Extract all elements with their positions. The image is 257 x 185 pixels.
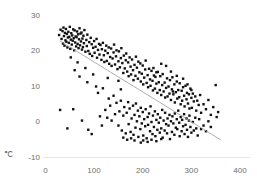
data-point [139,62,141,64]
data-point [99,115,101,117]
data-point [76,61,78,63]
data-point [171,115,173,117]
data-point [172,122,174,124]
data-point [160,94,162,96]
data-point [132,104,134,106]
data-point [103,61,105,63]
data-point [104,109,106,111]
data-point [166,117,168,119]
data-point [116,68,118,70]
data-point [189,126,191,128]
data-point [108,97,110,99]
data-point [121,62,123,64]
data-point [76,43,78,45]
data-point [181,119,183,121]
x-tick-label: 100 [79,166,109,175]
data-point [92,73,94,75]
data-point [107,77,109,79]
data-point [135,55,137,57]
data-point [77,33,79,35]
data-point [104,49,106,51]
data-point [124,67,126,69]
data-point [120,100,122,102]
data-point [182,125,184,127]
data-point [158,122,160,124]
data-point [128,56,130,58]
data-point [128,107,130,109]
data-point [150,70,152,72]
data-point [117,80,119,82]
data-point [107,52,109,54]
y-tick-label: 20 [20,46,40,55]
data-point [97,92,99,94]
data-point [70,56,72,58]
data-point [174,101,176,103]
data-point [188,107,190,109]
data-point [185,98,187,100]
data-point [83,42,85,44]
data-point [146,116,148,118]
data-point [81,119,83,121]
data-point [126,70,128,72]
data-point [154,135,156,137]
data-point [155,140,157,142]
data-point [82,35,84,37]
data-point [151,80,153,82]
data-point [98,53,100,55]
data-point [110,119,112,121]
data-point [168,92,170,94]
data-point [115,102,117,104]
data-point [81,48,83,50]
data-point [59,109,61,111]
data-point [170,70,172,72]
data-point [195,127,197,129]
data-point [110,47,112,49]
data-point [179,82,181,84]
data-point [74,41,76,43]
data-point [58,34,60,36]
data-point [134,126,136,128]
data-point [161,84,163,86]
data-point [97,49,99,51]
data-point [191,107,193,109]
data-point [122,114,124,116]
data-point [171,76,173,78]
data-point [160,138,162,140]
data-point [129,65,131,67]
data-point [144,108,146,110]
y-tick-label: 10 [20,82,40,91]
data-point [71,34,73,36]
data-point [193,129,195,131]
data-point [90,133,92,135]
data-point [176,75,178,77]
data-point [137,77,139,79]
data-point [167,85,169,87]
data-point [137,109,139,111]
data-point [72,40,74,42]
data-point [127,101,129,103]
data-point [111,57,113,59]
data-point [62,26,64,28]
data-point [143,76,145,78]
data-point [169,138,171,140]
data-point [177,89,179,91]
data-point [161,109,163,111]
data-point [142,134,144,136]
data-point [101,48,103,50]
data-point [178,122,180,124]
data-point [103,54,105,56]
x-tick-label: 400 [225,166,255,175]
data-point [210,114,212,116]
data-point [129,131,131,133]
data-point [115,55,117,57]
data-point [187,136,189,138]
data-point [217,111,219,113]
data-point [202,124,204,126]
data-point [141,73,143,75]
data-point [136,66,138,68]
data-point [117,124,119,126]
data-point [121,129,123,131]
data-point [75,45,77,47]
data-point [140,107,142,109]
data-point [147,124,149,126]
